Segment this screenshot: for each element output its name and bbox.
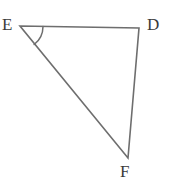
triangle-def-shape — [20, 26, 139, 158]
geometry-figure: E D F — [0, 0, 173, 189]
vertex-label-e: E — [2, 16, 12, 33]
vertex-label-f: F — [120, 163, 129, 180]
vertex-label-d: D — [147, 16, 159, 33]
angle-arc-vertex-e — [34, 26, 43, 44]
